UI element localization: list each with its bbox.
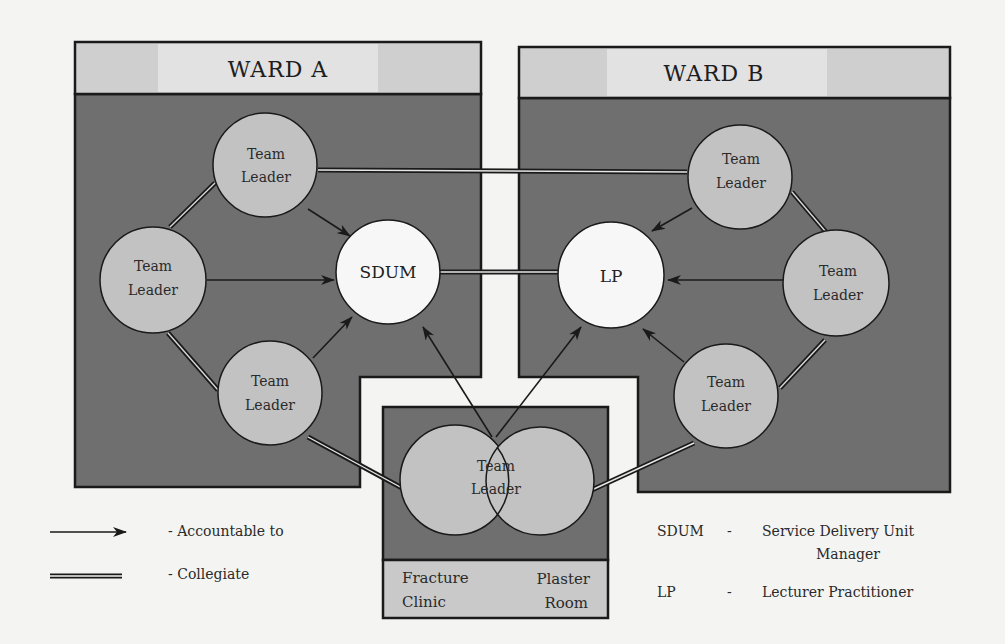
legend-lp-abbr: LP (657, 584, 676, 600)
svg-text:Team: Team (722, 151, 760, 167)
ward-a-team-leader-left: Team Leader (100, 227, 206, 333)
legend-lp-line1: Lecturer Practitioner (762, 584, 913, 600)
legend-sdum-abbr: SDUM (657, 523, 704, 539)
ward-b-team-leader-right: Team Leader (783, 230, 889, 336)
ward-b-team-leader-bottom: Team Leader (674, 344, 778, 448)
legend-sdum-dash: - (727, 523, 732, 539)
shared-team-leader-line2: Leader (471, 481, 521, 497)
ward-a-title: WARD A (228, 57, 329, 82)
svg-text:Leader: Leader (701, 398, 751, 414)
shared-team-leader-line1: Team (477, 458, 515, 474)
svg-text:Leader: Leader (128, 282, 178, 298)
svg-text:Leader: Leader (716, 175, 766, 191)
legend-collegiate-label: - Collegiate (168, 566, 249, 582)
svg-text:Leader: Leader (245, 397, 295, 413)
plaster-room-line1: Plaster (536, 570, 590, 588)
ward-a-team-leader-bottom: Team Leader (218, 341, 322, 445)
sdum-node: SDUM (336, 220, 440, 324)
svg-text:Team: Team (134, 258, 172, 274)
legend-lp-dash: - (727, 584, 732, 600)
plaster-room-line2: Room (544, 594, 588, 612)
ward-b-title: WARD B (664, 61, 765, 86)
svg-text:Leader: Leader (813, 287, 863, 303)
fracture-clinic-line2: Clinic (402, 593, 446, 611)
lp-node: LP (558, 222, 664, 328)
ward-a-team-leader-top: Team Leader (213, 113, 317, 217)
legend-sdum-line1: Service Delivery Unit (762, 523, 914, 539)
svg-text:Team: Team (251, 373, 289, 389)
legend-sdum-line2: Manager (816, 546, 880, 562)
ward-b-team-leader-top: Team Leader (688, 125, 792, 229)
svg-text:Team: Team (247, 146, 285, 162)
svg-text:SDUM: SDUM (359, 262, 416, 282)
collegiate-link (318, 170, 687, 172)
legend-symbols (50, 532, 126, 576)
legend-accountable-label: - Accountable to (168, 523, 284, 539)
svg-text:Leader: Leader (241, 169, 291, 185)
fracture-clinic-line1: Fracture (402, 569, 469, 587)
svg-text:LP: LP (600, 266, 623, 286)
svg-text:Team: Team (819, 263, 857, 279)
svg-text:Team: Team (707, 374, 745, 390)
